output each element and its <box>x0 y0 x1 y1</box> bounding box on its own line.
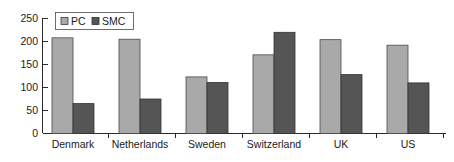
x-axis-category-labels: Denmark Netherlands Sweden Switzerland U… <box>52 138 416 150</box>
bar-group-sweden <box>186 77 228 134</box>
y-tick-label-150: 150 <box>20 58 38 70</box>
category-label-denmark: Denmark <box>52 138 95 150</box>
bar-group-uk <box>320 40 362 134</box>
chart-legend: PC SMC <box>56 13 134 30</box>
y-tick-label-0: 0 <box>32 127 38 139</box>
y-axis-tick-labels: 250 200 150 100 50 0 <box>20 12 38 139</box>
x-axis-group-separators <box>109 134 444 138</box>
chart-canvas: 250 200 150 100 50 0 <box>0 0 454 162</box>
bar-group-netherlands <box>119 39 161 133</box>
legend-swatch-smc-icon <box>92 18 99 25</box>
bar-smc-netherlands <box>140 99 161 134</box>
bar-pc-us <box>387 45 408 133</box>
category-label-sweden: Sweden <box>188 138 226 150</box>
bar-group-switzerland <box>253 32 295 133</box>
legend-label-smc: SMC <box>102 15 126 27</box>
legend-label-pc: PC <box>71 15 86 27</box>
bar-smc-us <box>408 83 429 134</box>
grouped-bar-chart: 250 200 150 100 50 0 <box>0 0 454 162</box>
category-label-us: US <box>401 138 416 150</box>
bar-group-us <box>387 45 429 133</box>
y-tick-label-50: 50 <box>26 104 38 116</box>
bar-smc-uk <box>341 75 362 134</box>
y-tick-label-100: 100 <box>20 81 38 93</box>
bar-pc-uk <box>320 40 341 134</box>
bar-smc-switzerland <box>274 32 295 133</box>
bar-pc-sweden <box>186 77 207 134</box>
category-label-uk: UK <box>334 138 349 150</box>
y-tick-label-250: 250 <box>20 12 38 24</box>
bar-smc-denmark <box>73 104 94 134</box>
category-label-netherlands: Netherlands <box>112 138 169 150</box>
y-axis-ticks <box>43 19 48 111</box>
bar-pc-denmark <box>52 38 73 134</box>
legend-swatch-pc-icon <box>61 18 68 25</box>
bar-pc-netherlands <box>119 39 140 133</box>
bar-group-denmark <box>52 38 94 134</box>
y-tick-label-200: 200 <box>20 35 38 47</box>
category-label-switzerland: Switzerland <box>247 138 301 150</box>
bar-pc-switzerland <box>253 55 274 134</box>
bar-smc-sweden <box>207 82 228 133</box>
